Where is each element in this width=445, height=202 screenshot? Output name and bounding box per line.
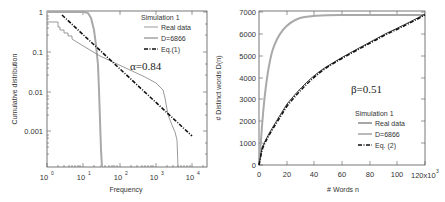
left-alpha-annotation: α=0.84 bbox=[130, 60, 162, 72]
right-chart: 7000 6000 5000 4000 3000 2000 1000 0 0 2… bbox=[215, 8, 439, 193]
left-x-tick-base: 10 bbox=[40, 173, 48, 182]
left-x-tick-base: 10 bbox=[186, 173, 194, 182]
right-y-tick-label: 5000 bbox=[239, 52, 256, 61]
right-x-tick-label: 20 bbox=[283, 170, 291, 179]
left-x-tick-exp: 3 bbox=[161, 170, 164, 176]
left-y-tick-label: 0.01 bbox=[28, 88, 43, 97]
left-x-axis-label: Frequency bbox=[109, 186, 143, 194]
left-x-tick-base: 10 bbox=[114, 173, 122, 182]
right-y-tick-label: 1000 bbox=[239, 139, 256, 148]
right-x-axis-label: # Words n bbox=[327, 186, 359, 193]
right-legend: Simulation 1 Real data D=6866 Eq. (2) bbox=[355, 110, 405, 150]
left-x-tick-exp: 1 bbox=[88, 170, 91, 176]
right-y-tick-label: 0 bbox=[252, 161, 256, 170]
right-y-tick-label: 4000 bbox=[239, 74, 256, 83]
right-beta-annotation: β=0.51 bbox=[351, 83, 382, 95]
left-series-real-data bbox=[47, 22, 178, 167]
left-x-tick-labels: 10 0 10 1 10 2 10 3 10 4 bbox=[40, 170, 200, 182]
left-legend-label: D=6866 bbox=[161, 35, 186, 42]
right-x-tick-label: 100 bbox=[391, 170, 404, 179]
right-y-ticks bbox=[259, 12, 425, 165]
right-plot-frame bbox=[259, 11, 425, 165]
left-legend: Simulation 1 Real data D=6866 Eq.(1) bbox=[141, 14, 191, 54]
right-legend-label: D=6866 bbox=[375, 131, 400, 138]
right-x-tick-label: 80 bbox=[366, 170, 374, 179]
right-series-eq2 bbox=[259, 15, 425, 165]
left-y-tick-label: 0.1 bbox=[33, 48, 43, 57]
left-legend-title: Simulation 1 bbox=[141, 14, 180, 21]
left-legend-label: Real data bbox=[161, 24, 191, 31]
right-legend-title: Simulation 1 bbox=[355, 110, 394, 117]
right-x-tick-label: 0 bbox=[257, 170, 261, 179]
right-y-tick-label: 2000 bbox=[239, 117, 256, 126]
right-y-tick-label: 3000 bbox=[239, 95, 256, 104]
figure: 1 0.1 0.01 0.001 10 0 10 1 10 2 10 3 10 … bbox=[0, 0, 445, 202]
left-y-tick-label: 1 bbox=[39, 8, 43, 17]
right-x-tick-label: 60 bbox=[338, 170, 346, 179]
left-chart: 1 0.1 0.01 0.001 10 0 10 1 10 2 10 3 10 … bbox=[11, 8, 207, 194]
right-x-tick-exp: 3 bbox=[436, 168, 439, 174]
right-y-axis-label: # Distinct words D(n) bbox=[215, 56, 223, 121]
left-series-eq1 bbox=[62, 15, 192, 136]
right-x-ticks bbox=[259, 11, 425, 165]
left-x-tick-exp: 2 bbox=[125, 170, 128, 176]
left-series-d6866 bbox=[47, 12, 102, 167]
left-x-tick-exp: 4 bbox=[197, 170, 200, 176]
right-legend-label: Real data bbox=[375, 120, 405, 127]
right-x-tick-label-last: 120x10 bbox=[411, 171, 436, 180]
left-y-tick-label: 0.001 bbox=[24, 127, 43, 136]
left-x-tick-base: 10 bbox=[150, 173, 158, 182]
right-y-tick-label: 7000 bbox=[239, 8, 256, 17]
right-y-tick-label: 6000 bbox=[239, 30, 256, 39]
right-legend-label: Eq. (2) bbox=[375, 142, 396, 150]
left-x-tick-base: 10 bbox=[77, 173, 85, 182]
right-x-tick-label: 40 bbox=[310, 170, 318, 179]
left-legend-label: Eq.(1) bbox=[161, 46, 180, 54]
right-series-real-data bbox=[259, 14, 425, 165]
left-x-tick-exp: 0 bbox=[51, 170, 54, 176]
left-y-ticks bbox=[47, 12, 207, 154]
left-y-axis-label: Cumulative distribution bbox=[11, 53, 18, 124]
right-series-d6866 bbox=[259, 15, 425, 165]
